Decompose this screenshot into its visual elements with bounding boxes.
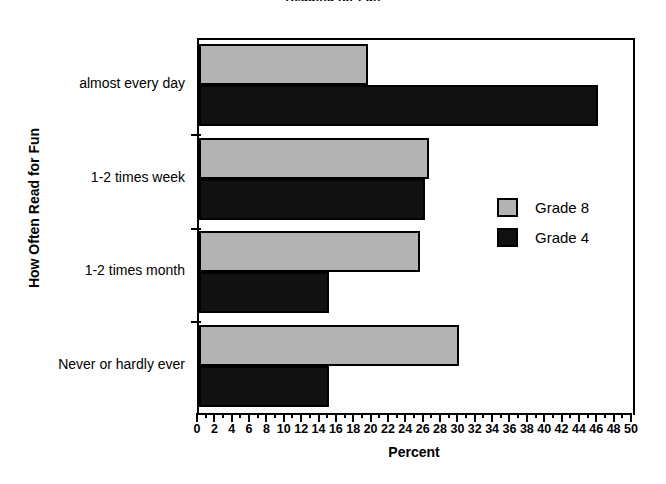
x-axis-tick [309, 413, 311, 418]
x-axis-tick [196, 413, 198, 422]
x-axis-tick [561, 413, 563, 422]
y-axis-label-2: 1-2 times month [85, 262, 185, 278]
x-axis-tick [404, 413, 406, 422]
x-axis-tick [361, 413, 363, 418]
x-axis-tick-label: 50 [624, 422, 638, 436]
x-axis-title: Percent [197, 444, 631, 460]
x-axis-tick [430, 413, 432, 418]
x-axis-tick [387, 413, 389, 422]
bar-grade-8-1 [199, 138, 429, 179]
y-axis-label-3: Never or hardly ever [58, 356, 185, 372]
x-axis-tick [205, 413, 207, 418]
x-axis-tick [500, 413, 502, 418]
x-axis-tick [422, 413, 424, 422]
legend: Grade 8Grade 4 [497, 192, 589, 252]
x-axis-tick-label: 28 [433, 422, 447, 436]
x-axis-tick-label: 18 [346, 422, 360, 436]
x-axis-tick-label: 40 [537, 422, 551, 436]
x-axis-ticks [197, 413, 631, 422]
x-axis-tick-label: 46 [589, 422, 603, 436]
x-axis-tick [448, 413, 450, 418]
x-axis-tick [326, 413, 328, 418]
x-axis-tick [578, 413, 580, 422]
x-axis-tick-labels: 0246810121416182022242628303234363840424… [197, 422, 631, 438]
x-axis-tick [482, 413, 484, 418]
x-axis-tick [413, 413, 415, 418]
x-axis-tick [352, 413, 354, 422]
x-axis-tick [613, 413, 615, 422]
x-axis-tick [222, 413, 224, 418]
x-axis-tick [587, 413, 589, 418]
x-axis-tick [491, 413, 493, 422]
chart-root: Reading for Fun How Often Read for Fun a… [0, 0, 666, 484]
legend-label: Grade 8 [535, 199, 589, 216]
bar-grade-4-2 [199, 272, 329, 313]
x-axis-tick [318, 413, 320, 422]
x-axis-tick-label: 10 [277, 422, 291, 436]
x-axis-tick-label: 36 [503, 422, 517, 436]
x-axis-tick [543, 413, 545, 422]
x-axis-tick [370, 413, 372, 422]
bar-grade-4-3 [199, 366, 329, 407]
bar-grade-4-1 [199, 179, 425, 220]
y-axis-tick [191, 134, 201, 136]
legend-label: Grade 4 [535, 229, 589, 246]
x-axis-tick [456, 413, 458, 422]
x-axis-tick [526, 413, 528, 422]
legend-item-grade-8: Grade 8 [497, 192, 589, 222]
x-axis-tick [535, 413, 537, 418]
x-axis-tick-label: 34 [485, 422, 499, 436]
bar-grade-8-2 [199, 231, 420, 272]
x-axis-tick-label: 30 [450, 422, 464, 436]
y-axis-tick [191, 321, 201, 323]
x-axis-tick [257, 413, 259, 418]
x-axis-tick-label: 22 [381, 422, 395, 436]
x-axis-tick-label: 32 [468, 422, 482, 436]
x-axis-tick [344, 413, 346, 418]
x-axis-tick-label: 2 [211, 422, 218, 436]
x-axis-tick [274, 413, 276, 418]
x-axis-tick-label: 12 [294, 422, 308, 436]
legend-swatch-icon [497, 228, 518, 247]
x-axis-tick [300, 413, 302, 422]
x-axis-tick [508, 413, 510, 422]
bar-grade-8-3 [199, 325, 459, 366]
x-axis-tick-label: 42 [555, 422, 569, 436]
x-axis-tick-label: 0 [194, 422, 201, 436]
chart-title: Reading for Fun [0, 0, 666, 1]
bar-grade-4-0 [199, 85, 598, 126]
x-axis-tick [335, 413, 337, 422]
x-axis-tick-label: 24 [398, 422, 412, 436]
x-axis-tick-label: 8 [263, 422, 270, 436]
x-axis-tick [621, 413, 623, 418]
y-axis-category-labels: almost every day1-2 times week1-2 times … [0, 38, 197, 413]
x-axis-tick [595, 413, 597, 422]
x-axis-tick [604, 413, 606, 418]
x-axis-tick [465, 413, 467, 418]
x-axis-tick [439, 413, 441, 422]
x-axis-tick [213, 413, 215, 422]
legend-item-grade-4: Grade 4 [497, 222, 589, 252]
x-axis-tick [630, 413, 632, 422]
x-axis-tick-label: 44 [572, 422, 586, 436]
y-axis-label-0: almost every day [79, 75, 185, 91]
x-axis-tick [291, 413, 293, 418]
x-axis-tick-label: 20 [364, 422, 378, 436]
legend-swatch-icon [497, 198, 518, 217]
x-axis-tick [283, 413, 285, 422]
x-axis-tick [239, 413, 241, 418]
x-axis-tick [265, 413, 267, 422]
x-axis-tick-label: 48 [607, 422, 621, 436]
x-axis-tick [396, 413, 398, 418]
x-axis-tick-label: 4 [228, 422, 235, 436]
x-axis-tick [517, 413, 519, 418]
x-axis-tick [552, 413, 554, 418]
x-axis-tick-label: 26 [416, 422, 430, 436]
x-axis-tick [474, 413, 476, 422]
x-axis-tick-label: 38 [520, 422, 534, 436]
x-axis-tick [378, 413, 380, 418]
y-axis-tick [191, 228, 201, 230]
x-axis-tick-label: 14 [312, 422, 326, 436]
bar-grade-8-0 [199, 44, 368, 85]
x-axis-tick-label: 6 [246, 422, 253, 436]
